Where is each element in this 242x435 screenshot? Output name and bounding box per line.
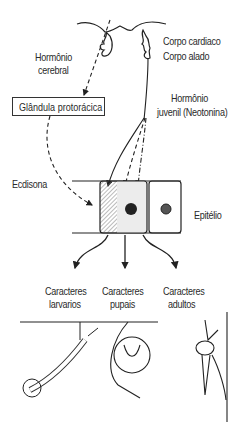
label-brain-hormone-2: cerebral bbox=[38, 64, 69, 77]
ecdysone-arrow bbox=[47, 116, 92, 205]
label-corpo-alado: Corpo alado bbox=[163, 50, 209, 63]
label-juvenile-hormone-2: juvenil (Neotonina) bbox=[157, 106, 227, 119]
label-pupal-2: pupais bbox=[110, 298, 135, 311]
label-pupal-1: Caracteres bbox=[102, 285, 144, 298]
jh-arrow-1 bbox=[108, 118, 144, 186]
label-larval-2: larvarios bbox=[49, 298, 81, 311]
adult-mosquito bbox=[196, 312, 227, 422]
juvenile-hormone-stem bbox=[144, 58, 148, 120]
label-epithelium: Epitélio bbox=[194, 209, 222, 222]
mosquito-pupa bbox=[111, 322, 150, 398]
label-adult-1: Caracteres bbox=[163, 285, 205, 298]
brain-outline bbox=[77, 22, 166, 59]
epithelium bbox=[72, 181, 181, 233]
brain-hormone-arrow bbox=[84, 20, 110, 95]
label-juvenile-hormone-1: Hormônio bbox=[171, 92, 208, 105]
label-brain-hormone-1: Hormônio bbox=[35, 51, 72, 64]
label-larval-1: Caracteres bbox=[45, 285, 87, 298]
mosquito-larva bbox=[23, 322, 98, 397]
label-corpo-cardiaco: Corpo cardiaco bbox=[163, 35, 221, 48]
label-gland: Glândula protorácica bbox=[19, 101, 102, 113]
label-adult-2: adultos bbox=[168, 298, 195, 311]
nucleus bbox=[161, 204, 171, 214]
nucleus-active bbox=[125, 203, 137, 215]
adult-arrow bbox=[143, 235, 176, 268]
label-ecdysone: Ecdisona bbox=[12, 178, 47, 191]
prothoracic-gland-box: Glândula protorácica bbox=[12, 97, 105, 116]
larval-arrow bbox=[75, 235, 108, 268]
